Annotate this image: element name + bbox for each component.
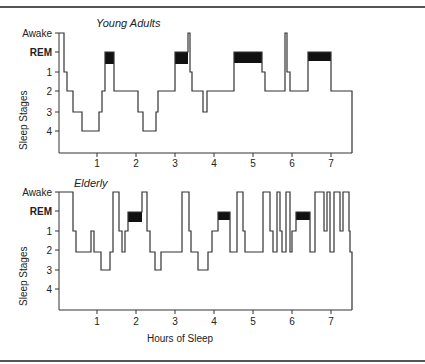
x-tick-label-6: 6 [289,158,295,169]
y-tick-label-rem: REM [30,206,52,217]
y-tick-label-3: 3 [46,265,52,276]
y-tick-label-3: 3 [46,107,52,118]
x-tick-label-2: 2 [133,316,139,327]
rem-blocks-elderly [128,212,310,222]
x-tick-label-3: 3 [172,158,178,169]
hypnogram-line-elderly [59,192,352,310]
y-ticks-young [55,33,59,131]
y-tick-label-4: 4 [46,284,52,295]
y-tick-label-awake: Awake [22,28,52,39]
x-tick-label-7: 7 [328,316,334,327]
y-tick-label-4: 4 [46,126,52,137]
x-tick-label-5: 5 [250,158,256,169]
x-tick-label-1: 1 [94,158,100,169]
chart-title-young: Young Adults [96,17,161,29]
y-tick-label-2: 2 [46,245,52,256]
y-tick-label-2: 2 [46,86,52,97]
y-axis-label-elderly: Sleep Stages [18,247,29,307]
y-tick-label-1: 1 [46,67,52,78]
y-tick-label-rem: REM [30,47,52,58]
hypnogram-figure: Young Adults Awake REM 1 2 3 4 Sleep Sta… [0,0,425,364]
chart-title-elderly: Elderly [74,177,109,189]
y-ticks-elderly [55,192,59,289]
x-ticks-young [97,153,331,157]
hypnogram-line-young [59,33,352,153]
x-axis-label: Hours of Sleep [147,333,214,344]
x-tick-label-6: 6 [289,316,295,327]
y-tick-label-awake: Awake [22,187,52,198]
y-axis-label-young: Sleep Stages [18,91,29,151]
x-tick-label-1: 1 [94,316,100,327]
y-tick-label-1: 1 [46,226,52,237]
chart-elderly: Elderly Awake REM 1 2 3 4 Sleep Stages [18,177,352,344]
x-tick-label-7: 7 [328,158,334,169]
x-tick-label-5: 5 [250,316,256,327]
x-ticks-elderly [97,310,331,314]
x-tick-label-4: 4 [211,316,217,327]
x-tick-label-4: 4 [211,158,217,169]
chart-young-adults: Young Adults Awake REM 1 2 3 4 Sleep Sta… [18,17,352,169]
rem-blocks-young [105,52,331,64]
x-tick-label-2: 2 [133,158,139,169]
x-tick-label-3: 3 [172,316,178,327]
